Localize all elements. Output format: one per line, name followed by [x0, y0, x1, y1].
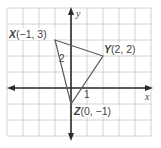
label-two: 2: [59, 53, 65, 64]
vertex-y-label: Y(2, 2): [104, 43, 136, 55]
x-axis-label: x: [144, 91, 150, 102]
vertex-z-label: Z(0, −1): [73, 105, 111, 117]
y-axis-down-arrow-icon: [68, 133, 74, 141]
label-one: 1: [84, 89, 90, 100]
y-axis-label: y: [75, 8, 81, 19]
coordinate-plane: y x 2 1 X(−1, 3) Y(2, 2) Z(0, −1): [0, 0, 161, 148]
x-axis-left-arrow-icon: [7, 85, 15, 91]
vertex-x-label: X(−1, 3): [8, 28, 47, 40]
